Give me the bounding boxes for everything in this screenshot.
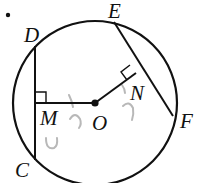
label-n: N xyxy=(129,81,145,105)
center-point-o xyxy=(91,99,98,106)
label-e: E xyxy=(107,0,121,23)
label-d: D xyxy=(23,23,39,47)
bullet-dot xyxy=(6,13,10,17)
label-f: F xyxy=(179,109,193,133)
label-o: O xyxy=(92,111,107,135)
right-angle-m-icon xyxy=(35,92,46,103)
label-m: M xyxy=(39,106,59,130)
pencil-marks xyxy=(46,85,133,148)
label-c: C xyxy=(15,158,30,182)
geometry-diagram: D E M O N F C xyxy=(0,0,199,183)
